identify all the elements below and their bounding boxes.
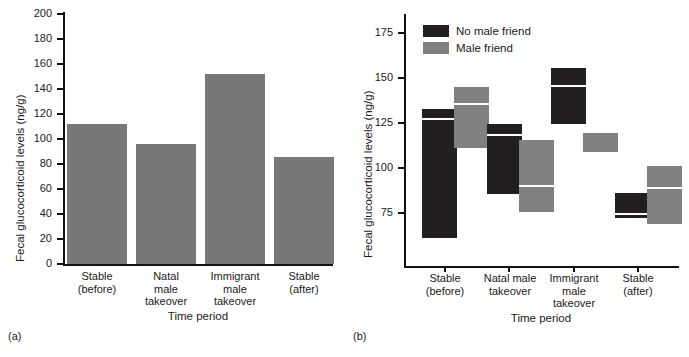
- panel-a-category-line-1: Stable: [62, 270, 132, 283]
- panel-a-bar-immigrant-male-takeover: [205, 74, 265, 264]
- panel-a-category-line-1: Immigrant: [200, 270, 270, 283]
- panel-b-category-line-1: Stable: [602, 272, 674, 285]
- panel-a-category-line-3: takeover: [131, 295, 201, 308]
- panel-b-median-light-natal-male-takeover: [519, 185, 554, 187]
- panel-a-caption: (a): [8, 330, 21, 342]
- panel-a-category-stable-after: Stable (after): [269, 270, 339, 295]
- panel-b-median-dark-stable-before: [422, 118, 457, 120]
- panel-b-ytick-label-100: 100: [361, 162, 393, 173]
- panel-a-ytick-label-140: 140: [18, 83, 52, 94]
- panel-a-bar-natal-male-takeover: [136, 144, 196, 264]
- panel-a-ytick-120: [57, 113, 63, 115]
- panel-b-box-dark-immigrant-male-takeover: [551, 68, 586, 124]
- panel-a-bar-chart: Fecal glucocorticoid levels (ng/g) 200 1…: [0, 0, 345, 357]
- panel-a-category-line-3: takeover: [200, 295, 270, 308]
- legend-item-no-male-friend: No male friend: [423, 25, 531, 37]
- panel-a-ytick-180: [57, 38, 63, 40]
- panel-b-ytick-label-150: 150: [361, 72, 393, 83]
- panel-a-ytick-label-160: 160: [18, 58, 52, 69]
- panel-a-ytick-140: [57, 88, 63, 90]
- panel-b-category-line-2: male: [537, 285, 611, 298]
- panel-b-ytick-label-175: 175: [361, 27, 393, 38]
- panel-b-category-line-1: Stable: [409, 272, 481, 285]
- panel-b-category-line-2: (after): [602, 285, 674, 298]
- panel-a-ytick-label-0: 0: [18, 258, 52, 269]
- panel-a-category-natal-male-takeover: Natal male takeover: [131, 270, 201, 308]
- panel-b-category-line-3: takeover: [537, 297, 611, 310]
- panel-a-ytick-100: [57, 138, 63, 140]
- legend-swatch-dark-icon: [423, 25, 449, 37]
- panel-a-ytick-label-200: 200: [18, 8, 52, 19]
- panel-a-y-axis-line: [63, 12, 65, 266]
- panel-b-y-axis-line: [404, 14, 406, 268]
- legend-swatch-light-icon: [423, 42, 449, 54]
- panel-b-category-stable-after: Stable (after): [602, 272, 674, 297]
- panel-b-caption: (b): [353, 330, 366, 342]
- panel-a-ytick-80: [57, 163, 63, 165]
- panel-a-category-line-2: male: [131, 283, 201, 296]
- panel-b-box-light-immigrant-male-takeover: [583, 133, 618, 152]
- panel-b-category-stable-before: Stable (before): [409, 272, 481, 297]
- panel-b-box-light-natal-male-takeover: [519, 140, 554, 212]
- panel-a-category-line-1: Natal: [131, 270, 201, 283]
- panel-a-bar-stable-after: [274, 157, 334, 264]
- panel-a-ytick-20: [57, 238, 63, 240]
- panel-b-ytick-label-125: 125: [361, 117, 393, 128]
- panel-a-ytick-label-100: 100: [18, 133, 52, 144]
- panel-b-median-dark-stable-after: [615, 213, 650, 215]
- panel-b-median-light-stable-after: [647, 187, 682, 189]
- panel-a-category-stable-before: Stable (before): [62, 270, 132, 295]
- panel-a-category-line-2: (before): [62, 283, 132, 296]
- panel-b-ytick-125: [398, 122, 404, 124]
- panel-a-category-immigrant-male-takeover: Immigrant male takeover: [200, 270, 270, 308]
- panel-b-box-dark-stable-after: [615, 193, 650, 218]
- panel-a-category-line-2: (after): [269, 283, 339, 296]
- panel-b-ytick-100: [398, 167, 404, 169]
- panel-b-ytick-label-75: 75: [361, 207, 393, 218]
- panel-b-x-axis-label: Time period: [476, 312, 606, 324]
- panel-b-y-axis-label: Fecal glucocorticoid levels (ng/g): [362, 91, 374, 258]
- panel-b-box-light-stable-after: [647, 166, 682, 224]
- legend-label-no-male-friend: No male friend: [456, 25, 531, 37]
- panel-a-ytick-40: [57, 213, 63, 215]
- panel-b-box-dark-stable-before: [422, 109, 457, 238]
- panel-a-category-line-2: male: [200, 283, 270, 296]
- panel-a-category-line-1: Stable: [269, 270, 339, 283]
- panel-a-ytick-label-180: 180: [18, 33, 52, 44]
- panel-a-ytick-label-120: 120: [18, 108, 52, 119]
- panel-b-box-chart: Fecal glucocorticoid levels (ng/g) 175 1…: [345, 0, 689, 357]
- panel-b-ytick-175: [398, 32, 404, 34]
- panel-b-median-dark-natal-male-takeover: [487, 134, 522, 136]
- panel-b-median-light-stable-before: [454, 103, 489, 105]
- panel-a-ytick-label-40: 40: [18, 208, 52, 219]
- panel-b-ytick-75: [398, 212, 404, 214]
- panel-a-ytick-200: [57, 13, 63, 15]
- panel-b-ytick-150: [398, 77, 404, 79]
- panel-b-box-dark-natal-male-takeover: [487, 124, 522, 194]
- panel-a-ytick-label-20: 20: [18, 233, 52, 244]
- panel-b-category-line-2: (before): [409, 285, 481, 298]
- legend-label-male-friend: Male friend: [456, 42, 513, 54]
- panel-a-x-axis-line: [63, 264, 333, 266]
- panel-a-ytick-0: [57, 263, 63, 265]
- panel-b-box-light-stable-before: [454, 87, 489, 148]
- panel-a-x-axis-label: Time period: [133, 310, 263, 322]
- panel-a-ytick-160: [57, 63, 63, 65]
- legend-item-male-friend: Male friend: [423, 42, 513, 54]
- panel-b-category-immigrant-male-takeover: Immigrant male takeover: [537, 272, 611, 310]
- panel-a-ytick-label-60: 60: [18, 183, 52, 194]
- panel-a-ytick-label-80: 80: [18, 158, 52, 169]
- panel-b-median-dark-immigrant-male-takeover: [551, 85, 586, 87]
- panel-b-category-line-1: Immigrant: [537, 272, 611, 285]
- panel-a-ytick-60: [57, 188, 63, 190]
- panel-a-bar-stable-before: [67, 124, 127, 264]
